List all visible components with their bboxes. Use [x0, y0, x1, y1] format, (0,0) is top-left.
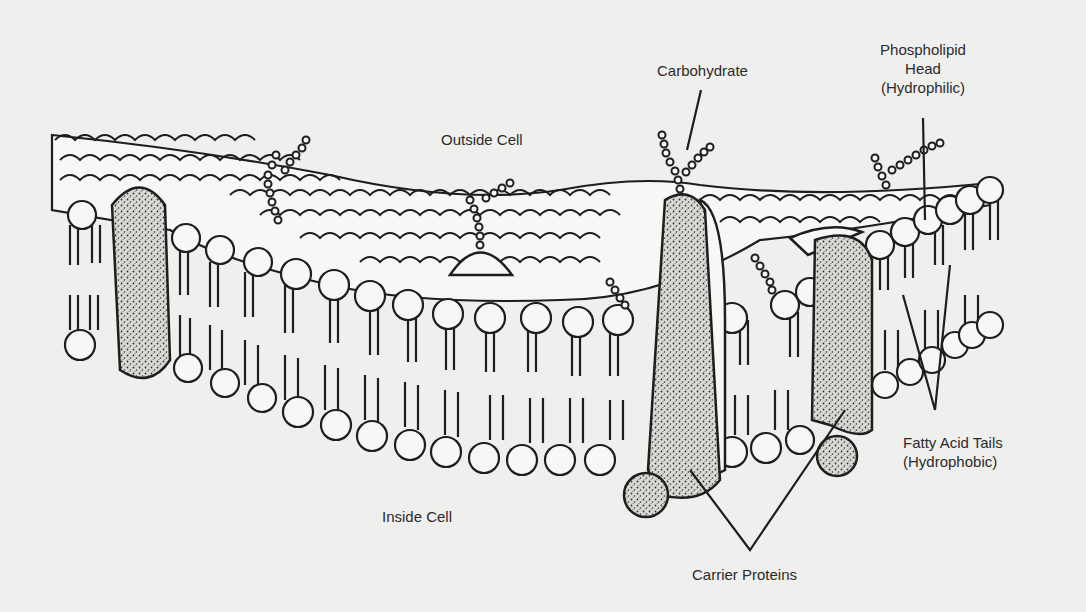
label-fatty-acid-tails: Fatty Acid Tails (Hydrophobic): [903, 433, 1003, 471]
phospholipid-head-line2: Head: [858, 59, 988, 78]
label-outside-cell: Outside Cell: [441, 130, 523, 149]
phospholipid-head-line1: Phospholipid: [858, 40, 988, 59]
label-phospholipid-head: Phospholipid Head (Hydrophilic): [858, 40, 988, 97]
fatty-acid-leader: [903, 265, 950, 410]
fatty-acid-line1: Fatty Acid Tails: [903, 433, 1003, 452]
label-inside-cell: Inside Cell: [382, 507, 452, 526]
label-carbohydrate: Carbohydrate: [657, 61, 748, 80]
integral-protein-left: [112, 188, 170, 379]
phospholipid-head-line3: (Hydrophilic): [858, 78, 988, 97]
fatty-acid-line2: (Hydrophobic): [903, 452, 1003, 471]
label-carrier-proteins: Carrier Proteins: [692, 565, 797, 584]
carb-chain-right: [872, 140, 944, 189]
carbohydrate-leader: [687, 90, 701, 150]
